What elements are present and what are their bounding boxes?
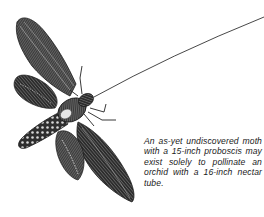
- proboscis: [94, 17, 264, 97]
- forewing-lower: [77, 122, 134, 202]
- caption: An as-yet undiscovered moth with a 15-in…: [144, 136, 262, 188]
